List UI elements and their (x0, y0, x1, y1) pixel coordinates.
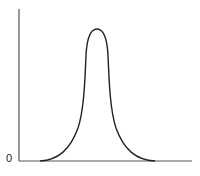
peak-chart (0, 0, 200, 176)
peak-curve (40, 29, 155, 161)
y-axis-zero-label: 0 (6, 153, 12, 164)
